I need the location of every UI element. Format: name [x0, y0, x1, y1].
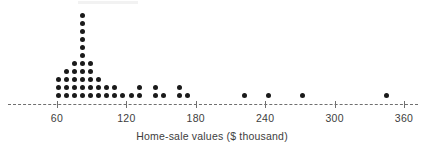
data-dot: [88, 93, 93, 98]
data-dot: [72, 93, 77, 98]
data-dot: [88, 61, 93, 66]
data-dot: [177, 85, 182, 90]
data-dot: [80, 69, 85, 74]
data-dot: [56, 93, 61, 98]
data-dot: [80, 45, 85, 50]
data-dot: [96, 93, 101, 98]
data-dot: [56, 77, 61, 82]
data-dot: [72, 85, 77, 90]
x-axis-title: Home-sale values ($ thousand): [0, 130, 424, 142]
data-dot: [64, 85, 69, 90]
x-axis-tick: [126, 101, 127, 108]
data-dot: [56, 85, 61, 90]
data-dot: [129, 93, 134, 98]
data-dot: [64, 93, 69, 98]
data-dot: [72, 69, 77, 74]
x-axis-tick-label: 360: [384, 112, 424, 124]
data-dot: [96, 85, 101, 90]
data-dot: [104, 93, 109, 98]
x-axis-tick: [265, 101, 266, 108]
data-dot: [80, 93, 85, 98]
data-dot: [384, 93, 389, 98]
data-dot: [80, 37, 85, 42]
x-axis-tick: [404, 101, 405, 108]
x-axis-tick-label: 240: [245, 112, 285, 124]
data-dot: [80, 53, 85, 58]
data-dot: [161, 93, 166, 98]
data-dot: [112, 93, 117, 98]
data-dot: [153, 93, 158, 98]
data-dot: [88, 69, 93, 74]
data-dot: [80, 85, 85, 90]
x-axis-tick-label: 120: [106, 112, 146, 124]
data-dot: [266, 93, 271, 98]
data-dot: [72, 61, 77, 66]
data-dot: [300, 93, 305, 98]
data-dot: [80, 61, 85, 66]
data-dot: [137, 85, 142, 90]
dot-plot-chart: 60120180240300360 Home-sale values ($ th…: [0, 0, 424, 145]
data-dot: [80, 77, 85, 82]
x-axis-tick: [335, 101, 336, 108]
data-dot: [96, 77, 101, 82]
data-dot: [80, 21, 85, 26]
data-dot: [242, 93, 247, 98]
x-axis-tick-label: 60: [37, 112, 77, 124]
data-dot: [153, 85, 158, 90]
data-dot: [88, 77, 93, 82]
x-axis-tick-label: 180: [176, 112, 216, 124]
data-dot: [112, 85, 117, 90]
scan-artifact: [78, 1, 138, 4]
data-dot: [185, 93, 190, 98]
data-dot: [177, 93, 182, 98]
data-dot: [64, 69, 69, 74]
data-dot: [80, 13, 85, 18]
data-dot: [64, 77, 69, 82]
x-axis-tick-label: 300: [315, 112, 355, 124]
data-dot: [80, 29, 85, 34]
data-dot: [72, 77, 77, 82]
data-dot: [88, 85, 93, 90]
data-dot: [120, 93, 125, 98]
x-axis-tick: [57, 101, 58, 108]
data-dot: [104, 85, 109, 90]
x-axis-tick: [196, 101, 197, 108]
data-dot: [137, 93, 142, 98]
x-axis-line: [8, 104, 418, 105]
